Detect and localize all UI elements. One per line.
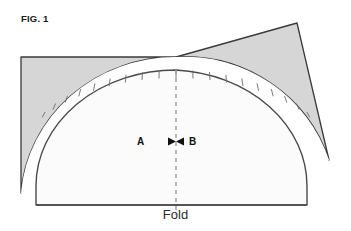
tick-mark — [93, 83, 95, 91]
tick-mark — [142, 72, 143, 80]
patent-figure-drawing — [0, 0, 351, 231]
tick-mark — [257, 83, 259, 91]
tick-mark — [210, 72, 211, 80]
tick-mark — [271, 89, 273, 96]
figure-container: FIG. 1 A B Fold — [0, 0, 351, 231]
label-b: B — [189, 136, 196, 147]
figure-title: FIG. 1 — [21, 13, 49, 24]
fold-label: Fold — [0, 207, 351, 222]
label-a: A — [137, 136, 144, 147]
tick-mark — [242, 79, 243, 87]
